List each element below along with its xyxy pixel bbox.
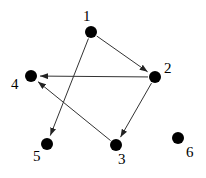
edge-1-to-5 (50, 39, 88, 136)
node-2 (149, 71, 161, 83)
node-label-2: 2 (164, 61, 172, 76)
graph-diagram: 123456 (0, 0, 206, 178)
node-1 (85, 26, 97, 38)
node-4 (25, 70, 37, 82)
node-6 (172, 132, 184, 144)
node-label-1: 1 (83, 9, 91, 24)
node-label-6: 6 (186, 145, 194, 160)
edge-2-to-4 (40, 76, 148, 77)
edge-3-to-4 (38, 82, 111, 141)
node-3 (110, 139, 122, 151)
node-label-4: 4 (11, 77, 19, 92)
graph-edges-layer (0, 0, 206, 178)
edge-1-to-2 (97, 36, 148, 72)
node-label-5: 5 (33, 149, 41, 164)
node-5 (41, 138, 53, 150)
node-label-3: 3 (118, 152, 126, 167)
edge-2-to-3 (120, 83, 151, 137)
